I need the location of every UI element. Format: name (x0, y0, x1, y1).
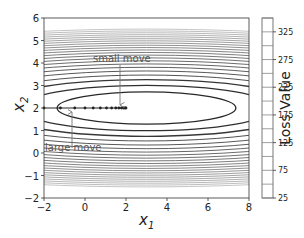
contour-plot: small movelarge move −202468 −2−10123456… (0, 0, 304, 238)
svg-text:1: 1 (33, 126, 39, 137)
y-axis-label: x2 (10, 97, 30, 113)
svg-text:3: 3 (33, 81, 39, 92)
x-axis-label: x1 (138, 211, 154, 231)
svg-text:5: 5 (33, 36, 39, 47)
svg-text:4: 4 (164, 202, 170, 213)
annotation-large-move: large move (45, 142, 101, 153)
contour-figure: small movelarge move −202468 −2−10123456… (0, 0, 304, 238)
svg-text:6: 6 (33, 13, 39, 24)
svg-text:0: 0 (82, 202, 88, 213)
svg-text:4: 4 (33, 58, 39, 69)
svg-text:75: 75 (278, 166, 288, 175)
svg-text:−2: −2 (24, 193, 39, 204)
svg-text:325: 325 (278, 28, 293, 37)
svg-text:25: 25 (278, 194, 288, 203)
svg-text:2: 2 (33, 103, 39, 114)
svg-text:8: 8 (246, 202, 252, 213)
svg-text:6: 6 (205, 202, 211, 213)
trajectory-line (43, 107, 128, 110)
svg-text:0: 0 (33, 148, 39, 159)
svg-text:−1: −1 (24, 171, 39, 182)
colorbar-label: Loss Value (277, 71, 293, 145)
svg-text:2: 2 (123, 202, 129, 213)
annotation-small-move: small move (93, 53, 151, 64)
svg-text:275: 275 (278, 56, 293, 65)
